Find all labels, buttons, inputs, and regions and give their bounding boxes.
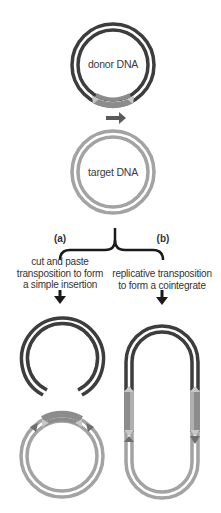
branch-b-description: replicative transposition to form a coin… xyxy=(110,268,214,291)
transfer-arrow-icon xyxy=(106,112,126,124)
donor-transposon-segment xyxy=(92,95,134,106)
branch-a-tag: (a) xyxy=(52,233,68,244)
transposition-diagram: donor DNA target DNA (a) (b) cut and pas… xyxy=(0,0,221,513)
branch-b-tag: (b) xyxy=(155,233,171,244)
arrow-down-icon-a xyxy=(54,290,66,304)
branch-a-line-3: a simple insertion xyxy=(8,279,112,291)
branch-a-line-2: transposition to form xyxy=(8,268,112,280)
target-dna-label: target DNA xyxy=(63,166,163,178)
result-a-opened-donor xyxy=(22,318,104,395)
branch-b-line-2: to form a cointegrate xyxy=(110,280,214,292)
donor-dna-label: donor DNA xyxy=(63,58,163,70)
branch-a-line-1: cut and paste xyxy=(8,256,112,268)
result-a-target-with-insertion xyxy=(21,413,103,497)
result-b-cointegrate xyxy=(124,326,200,498)
arrow-down-icon-b xyxy=(156,290,168,305)
branch-b-line-1: replicative transposition xyxy=(110,268,214,280)
branch-a-description: cut and paste transposition to form a si… xyxy=(8,256,112,291)
